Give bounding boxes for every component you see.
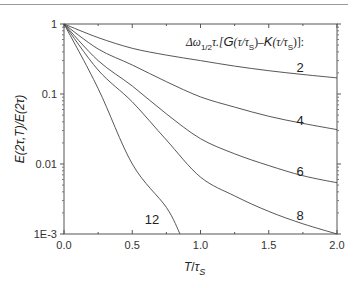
chart: 0.00.51.01.52.01E-30.010.11 246812 E(2τ,… [0, 0, 357, 288]
curve-12 [64, 24, 180, 234]
plot-frame [64, 24, 337, 234]
y-tick-label: 0.1 [42, 88, 57, 100]
curve-label-2: 2 [296, 60, 303, 75]
x-tick-label: 2.0 [329, 239, 344, 251]
x-tick-label: 1.0 [193, 239, 208, 251]
curve-label-8: 8 [296, 208, 303, 223]
plot-border [64, 24, 337, 234]
curve-labels: 246812 [145, 60, 304, 227]
y-tick-label: 1E-3 [34, 228, 57, 240]
x-axis-title: T/τS [184, 260, 205, 277]
curve-label-4: 4 [296, 113, 303, 128]
axis-ticks [60, 24, 341, 234]
curve-label-6: 6 [296, 164, 303, 179]
curve-label-12: 12 [145, 212, 159, 227]
y-tick-label: 1 [51, 18, 57, 30]
y-axis-title: E(2τ,T)/E(2τ) [13, 95, 27, 163]
y-tick-label: 0.01 [36, 158, 57, 170]
legend-title: Δω1/2τ.[G(τ/τS)–K(τ/τS)]: [185, 34, 304, 52]
x-tick-label: 0.0 [56, 239, 71, 251]
curves [64, 24, 337, 234]
x-tick-label: 0.5 [125, 239, 140, 251]
curve-8 [64, 24, 337, 234]
x-tick-label: 1.5 [261, 239, 276, 251]
